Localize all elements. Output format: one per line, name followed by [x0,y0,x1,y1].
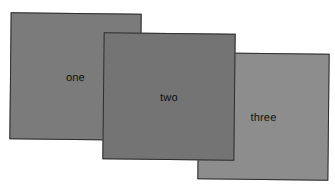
panel-two: two [102,32,235,160]
panel-three-label: three [250,110,276,122]
panel-one-label: one [66,70,85,82]
panel-two-label: two [160,90,178,102]
